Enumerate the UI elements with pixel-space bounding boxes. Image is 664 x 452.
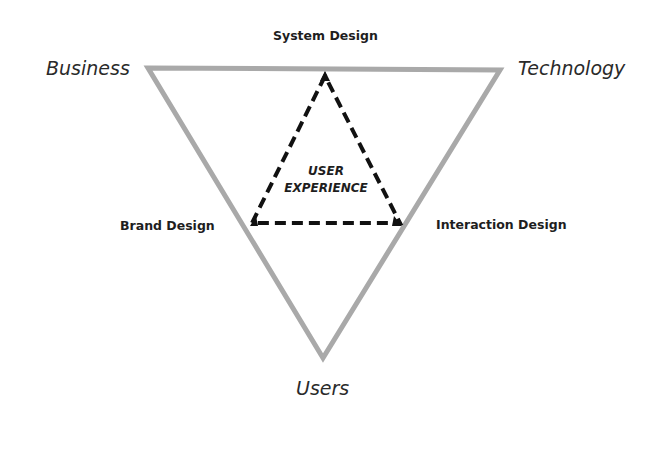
corner-label-users: Users [296,377,349,399]
corner-label-business: Business [46,57,130,79]
side-label-brand-design: Brand Design [120,218,215,233]
center-label-line1: USER [276,163,376,180]
inner-dashed-triangle [252,76,400,223]
ux-triangle-diagram: Business Technology Users System Design … [0,0,664,452]
side-label-system-design: System Design [273,28,378,43]
outer-triangle [148,68,500,358]
center-label-user-experience: USER EXPERIENCE [276,163,376,197]
corner-label-technology: Technology [518,57,625,79]
inner-apex-marker [320,71,330,81]
side-label-interaction-design: Interaction Design [436,217,567,232]
center-label-line2: EXPERIENCE [276,180,376,197]
